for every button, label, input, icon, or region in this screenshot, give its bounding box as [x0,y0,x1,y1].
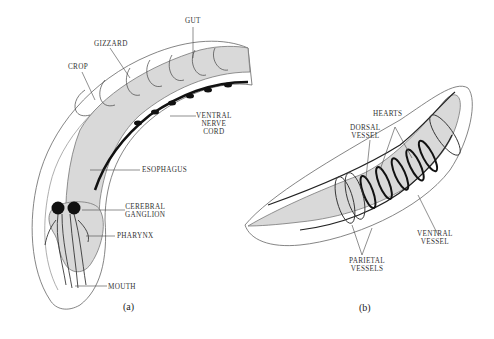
label-cerebral-ganglion: CEREBRAL GANGLION [125,203,165,219]
label-gut: GUT [185,17,201,25]
label-pharynx: PHARYNX [117,232,153,240]
earthworm-anatomy-diagram [0,0,494,339]
caption-a: (a) [123,301,134,312]
label-crop: CROP [68,63,88,71]
cerebral-ganglion-right [68,202,81,215]
caption-b: (b) [359,302,371,313]
label-gizzard: GIZZARD [94,40,128,48]
label-dorsal-vessel: DORSAL VESSEL [350,124,381,140]
label-ventral-nerve-cord: VENTRAL NERVE CORD [196,112,232,136]
label-esophagus: ESOPHAGUS [142,166,187,174]
cerebral-ganglion-left [52,202,65,215]
label-mouth: MOUTH [108,283,136,291]
label-parietal-vessels: PARIETAL VESSELS [349,257,385,273]
label-ventral-vessel: VENTRAL VESSEL [417,230,453,246]
label-hearts: HEARTS [373,110,402,118]
